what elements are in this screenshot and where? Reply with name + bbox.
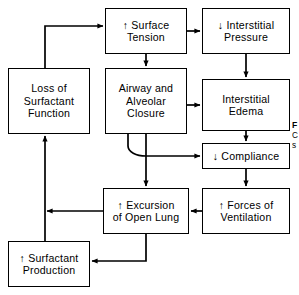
- node-line: Alveolar: [126, 95, 166, 108]
- node-line: ↑ Forces of: [219, 199, 274, 212]
- figure-canvas: ↑ Surface Tension ↓ Interstitial Pressur…: [0, 0, 299, 295]
- node-line: ↑ Excursion: [118, 199, 175, 212]
- node-forces-of-ventilation[interactable]: ↑ Forces of Ventilation: [202, 188, 290, 234]
- caption-line-2: C: [292, 131, 298, 141]
- node-airway-alveolar-closure[interactable]: Airway and Alveolar Closure: [105, 68, 187, 134]
- node-interstitial-pressure[interactable]: ↓ Interstitial Pressure: [202, 8, 290, 54]
- node-line: of Open Lung: [113, 211, 180, 224]
- node-line: Function: [28, 107, 70, 120]
- edge-airway-curve-to-compliance: [128, 134, 200, 156]
- node-line: Airway and: [119, 82, 173, 95]
- node-surfactant-production[interactable]: ↑ Surfactant Production: [8, 241, 90, 287]
- figure-caption: F C s: [292, 120, 298, 151]
- node-line: Tension: [127, 31, 165, 44]
- node-line: Closure: [127, 107, 165, 120]
- node-line: Production: [23, 264, 76, 277]
- caption-line-3: s: [292, 141, 298, 151]
- node-loss-of-surfactant-function[interactable]: Loss of Surfactant Function: [8, 68, 90, 134]
- node-line: ↓ Interstitial: [218, 19, 274, 32]
- node-surface-tension[interactable]: ↑ Surface Tension: [105, 8, 187, 54]
- node-line: Interstitial: [222, 93, 270, 106]
- node-line: ↑ Surfactant: [20, 252, 79, 265]
- node-interstitial-edema[interactable]: Interstitial Edema: [202, 79, 290, 131]
- node-excursion-of-open-lung[interactable]: ↑ Excursion of Open Lung: [103, 188, 189, 234]
- node-line: ↑ Surface: [123, 19, 170, 32]
- node-line: Edema: [229, 105, 264, 118]
- node-compliance[interactable]: ↓ Compliance: [202, 143, 290, 169]
- node-line: Surfactant: [24, 95, 74, 108]
- edge-excursion-to-production: [92, 234, 146, 261]
- node-line: Loss of: [31, 82, 67, 95]
- node-line: ↓ Compliance: [213, 150, 280, 163]
- caption-line-1: F: [292, 120, 298, 131]
- node-line: Ventilation: [220, 211, 271, 224]
- edge-loss-to-surface-tension: [45, 26, 103, 68]
- node-line: Pressure: [224, 31, 268, 44]
